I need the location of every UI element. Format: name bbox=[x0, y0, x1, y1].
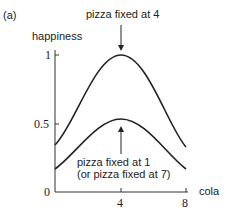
x-tick-label-8: 8 bbox=[182, 197, 188, 209]
arrowhead-down-icon bbox=[118, 45, 124, 51]
arrowhead-up-icon bbox=[118, 126, 124, 132]
annotation-pizza-7: (or pizza fixed at 7) bbox=[77, 168, 171, 180]
annotation-pizza-1: pizza fixed at 1 bbox=[77, 156, 150, 168]
y-tick-label-0: 0 bbox=[44, 186, 50, 198]
y-axis-label: happiness bbox=[32, 30, 82, 42]
y-tick-label-1: 1 bbox=[45, 49, 51, 61]
y-tick-label-05: 0.5 bbox=[34, 118, 49, 130]
annotation-pizza-4: pizza fixed at 4 bbox=[86, 8, 159, 20]
panel-label: (a) bbox=[3, 9, 16, 21]
x-axis-label: cola bbox=[199, 185, 219, 197]
x-tick-label-4: 4 bbox=[117, 197, 123, 209]
